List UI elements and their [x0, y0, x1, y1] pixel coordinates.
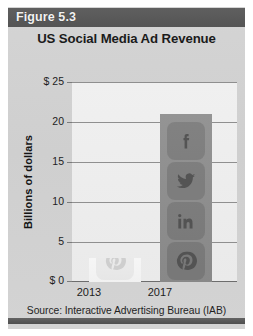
pinterest-icon	[167, 242, 205, 280]
source-note: Source: Interactive Advertising Bureau (…	[8, 305, 245, 316]
xtick-label-2013: 2013	[54, 286, 124, 298]
ytick-label-20: 20	[52, 115, 64, 127]
y-axis-title: Billions of dollars	[22, 0, 40, 82]
gridline-5: 5	[72, 242, 237, 243]
xtick-label-2017: 2017	[125, 286, 195, 298]
ytick-mark-15	[67, 162, 72, 163]
chart-title: US Social Media Ad Revenue	[8, 31, 245, 46]
ytick-mark-20	[67, 122, 72, 123]
bar-2017	[160, 114, 212, 282]
y-axis-title-text: Billions of dollars	[22, 82, 34, 282]
plot-area: $ 25 20 15 10 5 $ 0	[72, 82, 237, 282]
figure-panel: Figure 5.3 US Social Media Ad Revenue Bi…	[8, 7, 245, 329]
ytick-mark-5	[67, 242, 72, 243]
figure-footer-rule	[8, 318, 245, 324]
ytick-label-0: $ 0	[49, 274, 64, 286]
ytick-label-25: $ 25	[44, 75, 64, 87]
ytick-label-15: 15	[52, 155, 64, 167]
gridline-20: 20	[72, 122, 237, 123]
ytick-label-10: 10	[52, 195, 64, 207]
ytick-label-5: 5	[58, 235, 64, 247]
gridline-15: 15	[72, 162, 237, 163]
twitter-icon	[167, 162, 205, 200]
ytick-mark-0	[67, 281, 72, 282]
figure-header-band: Figure 5.3	[8, 8, 245, 27]
linkedin-icon	[167, 202, 205, 240]
bar-2013	[89, 258, 141, 282]
ytick-mark-25	[67, 82, 72, 83]
icon-stack-2017	[160, 122, 212, 282]
icon-stack-2013	[89, 258, 141, 282]
gridline-25: $ 25	[72, 82, 237, 83]
gridline-10: 10	[72, 202, 237, 203]
pinterest-icon	[96, 258, 134, 280]
facebook-icon	[167, 122, 205, 160]
ytick-mark-10	[67, 202, 72, 203]
